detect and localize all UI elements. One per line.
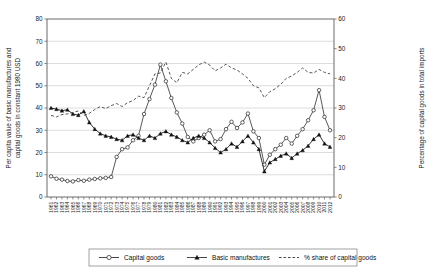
data-point-marker — [126, 146, 130, 150]
data-point-marker — [82, 179, 86, 183]
y-axis-left-title-line-0: Per capita value of basic manufactures a… — [5, 47, 13, 168]
data-point-marker — [317, 133, 321, 136]
legend-label-1: Basic manufactures — [212, 254, 271, 261]
data-point-marker — [268, 153, 272, 157]
data-point-marker — [274, 147, 278, 151]
data-point-marker — [306, 118, 310, 122]
data-point-marker — [186, 135, 190, 139]
data-point-marker — [175, 111, 179, 115]
y-axis-left-tick-label: 70 — [35, 38, 43, 45]
y-axis-right-tick-label: 0 — [338, 193, 342, 200]
data-point-marker — [252, 130, 256, 134]
y-axis-right-ticks: 0102030405060 — [334, 15, 346, 200]
data-point-marker — [230, 120, 234, 124]
data-point-marker — [317, 88, 321, 92]
y-axis-left-tick-label: 40 — [35, 104, 43, 111]
data-point-marker — [257, 136, 261, 140]
y-axis-left-tick-label: 10 — [35, 171, 43, 178]
legend-marker-open-circle — [107, 255, 111, 259]
legend-label-2: % share of capital goods — [304, 254, 377, 262]
y-axis-left-tick-label: 20 — [35, 149, 43, 156]
data-point-marker — [87, 121, 91, 124]
data-point-marker — [148, 97, 152, 101]
data-point-marker — [71, 180, 75, 184]
y-axis-right-tick-label: 20 — [338, 134, 346, 141]
data-point-marker — [170, 96, 174, 100]
y-axis-left-tick-label: 30 — [35, 127, 43, 134]
y-axis-left-tick-label: 60 — [35, 60, 43, 67]
data-point-marker — [82, 109, 86, 112]
x-axis-tick-label: 2012 — [327, 201, 333, 212]
data-point-marker — [148, 134, 152, 137]
data-point-marker — [312, 108, 316, 112]
data-point-marker — [241, 121, 245, 125]
dual-axis-line-chart: 01020304050607080 0102030405060 19611962… — [0, 0, 434, 274]
data-point-marker — [181, 122, 185, 126]
data-point-marker — [230, 142, 234, 145]
data-point-marker — [284, 136, 288, 140]
y-axis-left-tick-label: 80 — [35, 15, 43, 22]
y-axis-right-tick-label: 10 — [338, 164, 346, 171]
data-point-marker — [115, 155, 119, 159]
data-point-marker — [213, 140, 217, 144]
chart-container: 01020304050607080 0102030405060 19611962… — [0, 0, 434, 274]
y-axis-left-title-line-1: capital goods in constant 1980 USD — [14, 57, 22, 158]
data-point-marker — [142, 112, 146, 116]
data-point-marker — [109, 175, 113, 179]
data-point-marker — [290, 142, 294, 146]
data-point-marker — [323, 115, 327, 119]
y-axis-right-tick-label: 60 — [338, 15, 346, 22]
data-point-marker — [66, 179, 70, 183]
data-point-marker — [153, 83, 157, 87]
y-axis-right-tick-label: 40 — [338, 75, 346, 82]
data-point-marker — [55, 177, 59, 181]
data-point-marker — [93, 177, 97, 181]
data-point-marker — [131, 139, 135, 143]
data-point-marker — [197, 134, 201, 137]
data-point-marker — [159, 63, 163, 67]
data-point-marker — [98, 177, 102, 181]
data-series-group — [49, 62, 332, 183]
data-point-marker — [164, 80, 168, 84]
y-axis-left-tick-label: 0 — [39, 193, 43, 200]
series-line-2 — [51, 62, 330, 117]
data-point-marker — [295, 134, 299, 138]
data-point-marker — [328, 129, 332, 133]
y-axis-right-tick-label: 50 — [338, 45, 346, 52]
y-axis-right-title: Percentage of capital goods in total imp… — [418, 48, 426, 169]
data-point-marker — [104, 176, 108, 180]
data-point-marker — [301, 127, 305, 131]
y-axis-left-tick-label: 50 — [35, 82, 43, 89]
data-point-marker — [279, 143, 283, 147]
series-line-0 — [51, 65, 330, 182]
data-point-marker — [235, 126, 239, 130]
data-point-marker — [246, 112, 250, 116]
data-point-marker — [120, 147, 124, 151]
data-point-marker — [224, 127, 228, 131]
data-point-marker — [60, 178, 64, 182]
x-axis-ticks: 1961196219631964196519661967196819691970… — [48, 197, 333, 213]
gridlines-group — [47, 41, 334, 175]
y-axis-left-ticks: 01020304050607080 — [35, 15, 47, 200]
data-point-marker — [208, 129, 212, 133]
data-point-marker — [49, 175, 53, 179]
data-point-marker — [88, 178, 92, 182]
legend-label-0: Capital goods — [124, 254, 165, 262]
data-point-marker — [77, 178, 81, 182]
data-point-marker — [219, 137, 223, 141]
y-axis-right-tick-label: 30 — [338, 104, 346, 111]
data-point-marker — [191, 140, 195, 144]
chart-legend: Capital goodsBasic manufactures% share o… — [89, 249, 377, 266]
data-point-marker — [246, 134, 250, 137]
